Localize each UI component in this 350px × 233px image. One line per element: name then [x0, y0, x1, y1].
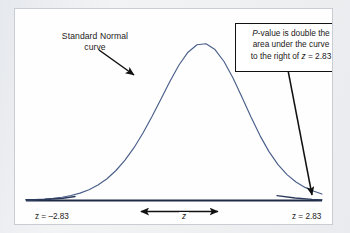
callout-line-3-post: = 2.83	[306, 51, 332, 61]
axis-label-left: z = –2.83	[35, 212, 69, 221]
curve-label-line-1: Standard Normal	[41, 31, 149, 42]
callout-line-1: P-value is double the	[240, 28, 333, 39]
curve-label-arrow	[99, 50, 134, 75]
figure-frame: Standard Normal curve P-value is double …	[14, 8, 333, 225]
callout-line-1-rest: -value is double the	[258, 28, 330, 38]
callout-line-3-pre: to the right of	[251, 51, 302, 61]
pvalue-callout-box: P-value is double the area under the cur…	[235, 23, 333, 72]
axis-label-center-z: z	[179, 212, 189, 221]
callout-line-2: area under the curve	[240, 39, 333, 50]
callout-line-3: to the right of z = 2.83	[240, 51, 333, 62]
curve-label-line-2: curve	[41, 42, 149, 53]
right-tail-shadow	[277, 196, 322, 200]
axis-label-right: z = 2.83	[292, 212, 321, 221]
callout-arrow	[287, 65, 312, 195]
figure-page: Standard Normal curve P-value is double …	[0, 0, 350, 233]
curve-annotation-label: Standard Normal curve	[41, 31, 149, 53]
